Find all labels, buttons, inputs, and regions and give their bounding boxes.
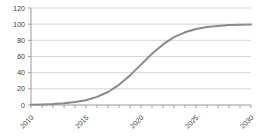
y-axis-tick-label: 60 bbox=[17, 53, 25, 60]
x-axis-tick-label: 2025 bbox=[184, 114, 200, 130]
sigmoid-line-chart: 02040608010012020102015202020252030 bbox=[0, 0, 264, 138]
y-axis-tick-label: 120 bbox=[13, 5, 25, 12]
x-axis-tick-label: 2015 bbox=[74, 114, 90, 130]
y-axis-tick-label: 100 bbox=[13, 21, 25, 28]
y-axis-tick-label: 80 bbox=[17, 37, 25, 44]
x-axis-tick-label: 2010 bbox=[19, 114, 35, 130]
series-line bbox=[31, 25, 251, 105]
y-axis-tick-label: 40 bbox=[17, 69, 25, 76]
y-axis-tick-label: 0 bbox=[21, 102, 25, 109]
x-axis-tick-label: 2020 bbox=[129, 114, 145, 130]
y-axis-tick-label: 20 bbox=[17, 85, 25, 92]
chart-canvas: 02040608010012020102015202020252030 bbox=[0, 0, 264, 138]
x-axis-tick-label: 2030 bbox=[239, 114, 255, 130]
